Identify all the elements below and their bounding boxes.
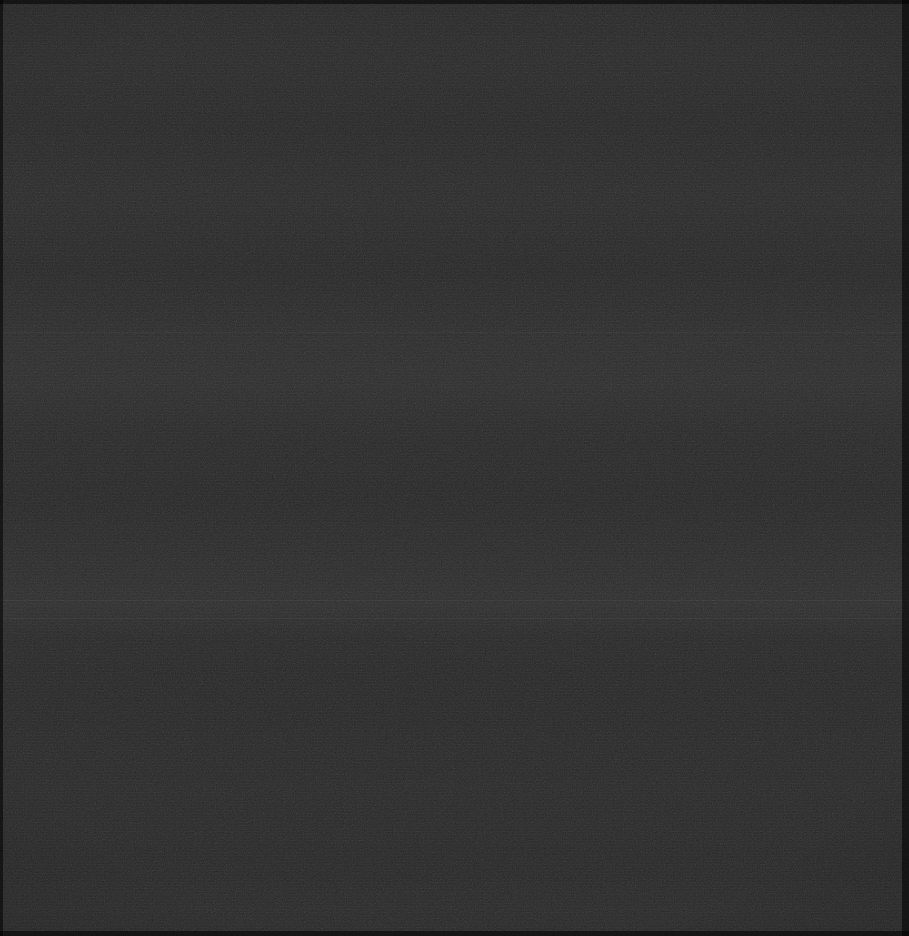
scanline-overlay bbox=[0, 0, 909, 936]
edge-border-right bbox=[902, 0, 909, 936]
edge-border-bottom bbox=[0, 931, 909, 936]
luminance-banding-overlay bbox=[0, 0, 909, 936]
hairline-lower bbox=[0, 618, 909, 619]
hairline-upper bbox=[0, 332, 909, 333]
hairline-mid bbox=[0, 600, 909, 601]
sensor-noise-overlay bbox=[0, 0, 909, 936]
edge-border-top bbox=[0, 0, 909, 4]
blank-screen-capture: Blank black screen capture — no visible … bbox=[0, 0, 909, 936]
vignette-overlay bbox=[0, 0, 909, 936]
edge-border-left bbox=[0, 0, 3, 936]
